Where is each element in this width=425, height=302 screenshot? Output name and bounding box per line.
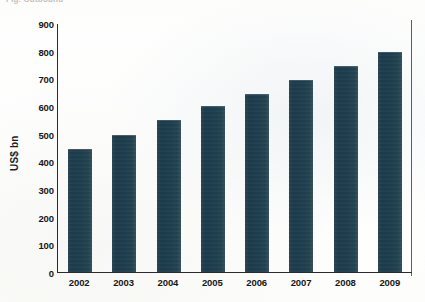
y-axis-tick-700: 700 xyxy=(24,74,54,85)
bar-2005 xyxy=(201,106,225,272)
cropped-header-text: Fig. Outbound xyxy=(6,0,102,7)
bar-cell-2008 xyxy=(324,24,368,272)
x-axis-tick-labels: 20022003200420052006200720082009 xyxy=(57,277,412,295)
y-axis-title: US$ bn xyxy=(9,125,23,181)
plot-right-border xyxy=(411,20,412,276)
bar-series xyxy=(58,24,412,272)
bar-cell-2004 xyxy=(147,24,191,272)
plot-area xyxy=(57,24,412,273)
y-axis-tick-900: 900 xyxy=(24,19,54,30)
x-axis-tick-2002: 2002 xyxy=(57,277,101,295)
x-axis-tick-2007: 2007 xyxy=(279,277,323,295)
bar-2008 xyxy=(334,66,358,272)
x-axis-tick-2008: 2008 xyxy=(323,277,367,295)
y-axis-tick-600: 600 xyxy=(24,102,54,113)
y-axis-tick-300: 300 xyxy=(24,185,54,196)
x-axis-tick-2009: 2009 xyxy=(368,277,412,295)
x-axis-tick-2006: 2006 xyxy=(235,277,279,295)
bar-2004 xyxy=(157,120,181,272)
x-axis-tick-2005: 2005 xyxy=(190,277,234,295)
bar-2009 xyxy=(378,52,402,272)
bar-2006 xyxy=(245,94,269,272)
chart-page: Fig. Outbound US$ bn 0100200300400500600… xyxy=(0,0,425,302)
bar-cell-2006 xyxy=(235,24,279,272)
bar-2002 xyxy=(68,149,92,272)
y-axis-tick-400: 400 xyxy=(24,157,54,168)
bar-cell-2002 xyxy=(58,24,102,272)
x-axis-tick-2004: 2004 xyxy=(146,277,190,295)
y-axis-tick-labels: 0100200300400500600700800900 xyxy=(24,0,54,302)
bar-cell-2009 xyxy=(368,24,412,272)
bar-cell-2003 xyxy=(102,24,146,272)
y-axis-tick-800: 800 xyxy=(24,46,54,57)
y-axis-tick-200: 200 xyxy=(24,212,54,223)
bar-2003 xyxy=(112,135,136,273)
bar-cell-2007 xyxy=(279,24,323,272)
bar-2007 xyxy=(289,80,313,272)
bar-cell-2005 xyxy=(191,24,235,272)
y-axis-tick-500: 500 xyxy=(24,129,54,140)
y-axis-tick-100: 100 xyxy=(24,240,54,251)
x-axis-tick-2003: 2003 xyxy=(101,277,145,295)
y-axis-tick-0: 0 xyxy=(24,268,54,279)
